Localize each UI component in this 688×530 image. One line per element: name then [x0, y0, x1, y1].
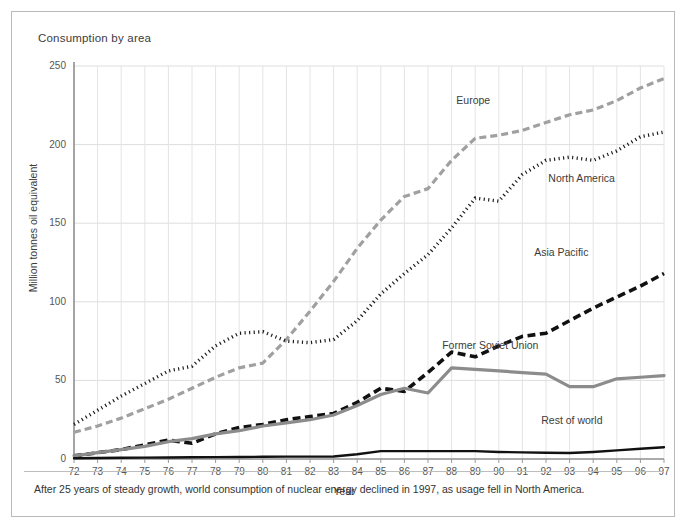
series-line [74, 274, 664, 456]
series-label: Former Soviet Union [442, 339, 538, 351]
y-axis-tick-label: 50 [26, 374, 66, 385]
series-label: Asia Pacific [534, 246, 588, 258]
y-axis-tick-label: 250 [26, 60, 66, 71]
chart-caption: After 25 years of steady growth, world c… [34, 482, 658, 496]
chart-plot-area: 0501001502002507273747576777879808182838… [12, 12, 676, 518]
figure-frame: Consumption by area 05010015020025072737… [11, 11, 675, 517]
series-label: North America [548, 172, 615, 184]
series-label: Rest of world [541, 414, 602, 426]
series-label: Europe [456, 94, 490, 106]
y-axis-title: Million tonnes oil equivalent [27, 123, 39, 333]
series-line [74, 447, 664, 458]
y-axis-tick-label: 0 [26, 453, 66, 464]
series-line [74, 368, 664, 456]
chart-svg [12, 12, 676, 518]
caption-divider [24, 471, 664, 472]
